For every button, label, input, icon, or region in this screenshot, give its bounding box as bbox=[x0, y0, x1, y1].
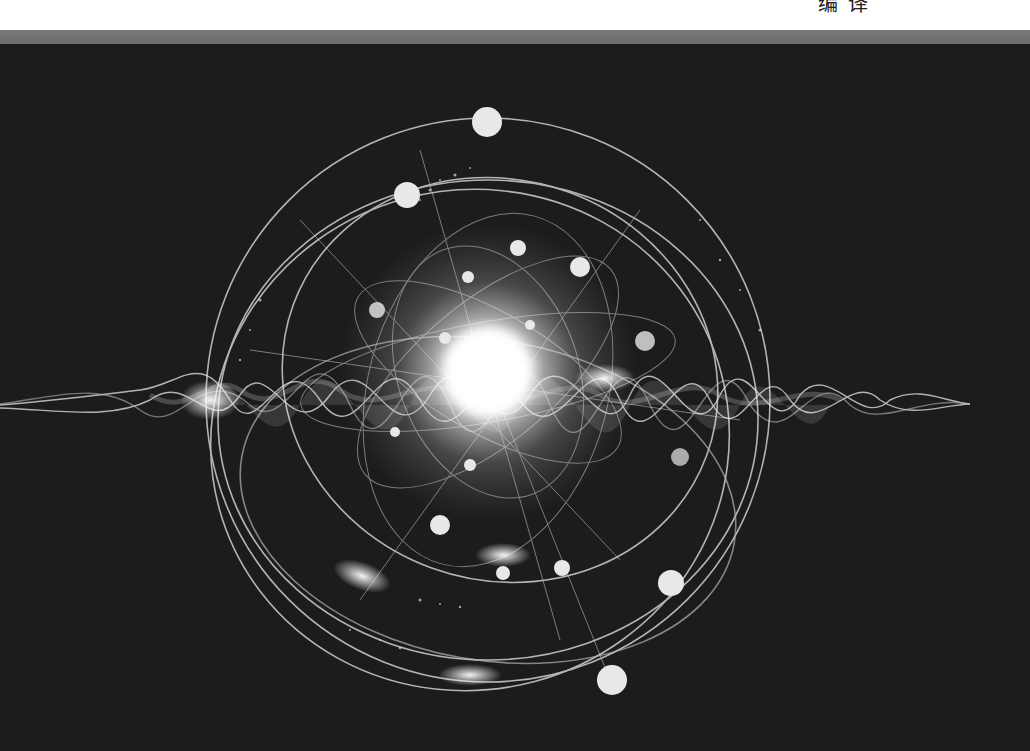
translator-credit: 编 译 bbox=[818, 0, 870, 17]
quantum-wave-illustration bbox=[0, 44, 1030, 751]
cover-artwork bbox=[0, 44, 1030, 751]
top-strip: 编 译 bbox=[0, 0, 1030, 30]
cover-top-band bbox=[0, 30, 1030, 44]
